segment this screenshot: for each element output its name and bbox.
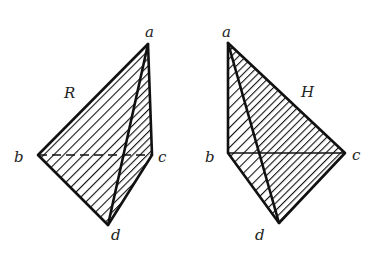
- left-tetrahedron: R a b c d: [14, 23, 167, 244]
- vertex-label-c: c: [352, 146, 361, 164]
- vertex-label-b: b: [205, 148, 215, 166]
- vertex-label-a: a: [145, 23, 154, 41]
- right-tetrahedron: H a b c d: [205, 23, 361, 244]
- view-label-R: R: [63, 84, 75, 102]
- vertex-label-d: d: [255, 226, 265, 244]
- vertex-label-a: a: [222, 23, 231, 41]
- view-label-H: H: [300, 83, 315, 101]
- vertex-label-c: c: [158, 148, 167, 166]
- vertex-label-b: b: [14, 148, 24, 166]
- vertex-label-d: d: [111, 226, 121, 244]
- tetrahedron-projections-diagram: R a b c d H a b c d: [0, 0, 376, 256]
